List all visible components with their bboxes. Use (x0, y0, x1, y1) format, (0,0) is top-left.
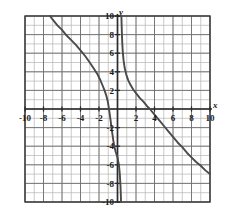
y-tick-label: 4 (110, 67, 115, 77)
y-tick-label: 2 (110, 86, 115, 96)
y-tick-label: -8 (107, 179, 115, 189)
y-tick-label: 10 (105, 11, 115, 21)
x-tick-label: -8 (40, 113, 48, 123)
x-tick-label: 2 (134, 113, 139, 123)
x-tick-label: 4 (152, 113, 157, 123)
y-tick-label: 8 (110, 30, 115, 40)
x-tick-label: -6 (58, 113, 66, 123)
y-tick-label: 6 (110, 48, 115, 58)
y-tick-label: -4 (107, 141, 115, 151)
x-tick-label: -2 (95, 113, 103, 123)
x-tick-label: 8 (189, 113, 194, 123)
y-tick-label: -10 (102, 197, 114, 207)
x-tick-label: 6 (171, 113, 176, 123)
x-tick-label: 10 (206, 113, 216, 123)
x-tick-label: -10 (19, 113, 31, 123)
x-axis-label: x (212, 100, 218, 110)
y-tick-label: -6 (107, 160, 115, 170)
graph-figure: -10-8-6-4-2246810108642-2-4-6-8-10 x y (0, 0, 231, 213)
coordinate-plane-svg: -10-8-6-4-2246810108642-2-4-6-8-10 x y (0, 0, 231, 213)
y-tick-label: -2 (107, 123, 115, 133)
x-tick-label: -4 (77, 113, 85, 123)
